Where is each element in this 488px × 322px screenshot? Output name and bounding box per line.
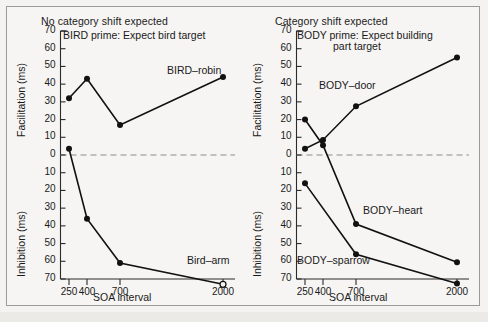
data-point	[117, 122, 123, 128]
plot-area-left	[7, 7, 251, 307]
data-point	[117, 260, 123, 266]
plot-area-right	[245, 7, 481, 307]
data-point	[353, 251, 359, 257]
data-point	[353, 221, 359, 227]
data-point	[66, 146, 72, 152]
data-point	[454, 259, 460, 265]
data-point	[302, 146, 308, 152]
series-line-bird-robin	[69, 77, 223, 125]
series-line-body-heart	[305, 120, 457, 263]
page-edge	[0, 312, 488, 322]
data-point	[302, 117, 308, 123]
data-point	[220, 281, 226, 287]
data-point	[353, 103, 359, 109]
figure-frame: No category shift expected BIRD prime: E…	[6, 6, 480, 306]
data-point	[454, 280, 460, 286]
data-point	[320, 142, 326, 148]
data-point	[66, 95, 72, 101]
series-line-body-door	[305, 58, 457, 149]
data-point	[220, 74, 226, 80]
series-line-bird-arm	[69, 149, 223, 285]
data-point	[454, 55, 460, 61]
figure-container: No category shift expected BIRD prime: E…	[0, 0, 488, 322]
data-point	[84, 76, 90, 82]
data-point	[302, 180, 308, 186]
panel-category-shift: Category shift expected BODY prime: Expe…	[245, 7, 481, 307]
data-point	[84, 216, 90, 222]
panel-no-category-shift: No category shift expected BIRD prime: E…	[7, 7, 251, 307]
